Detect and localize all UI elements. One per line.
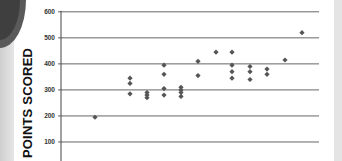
- data-point-diamond: [127, 91, 132, 96]
- data-point-diamond: [92, 115, 97, 120]
- data-point-diamond: [213, 50, 218, 55]
- data-point-diamond: [247, 64, 252, 69]
- y-tick-label: 200: [44, 112, 55, 119]
- data-point-diamond: [161, 86, 166, 91]
- data-point-diamond: [127, 76, 132, 81]
- data-point-diamond: [127, 81, 132, 86]
- data-point-diamond: [229, 69, 234, 74]
- data-point-diamond: [264, 72, 269, 77]
- data-point-diamond: [247, 77, 252, 82]
- data-point-diamond: [195, 73, 200, 78]
- data-point-diamond: [178, 94, 183, 99]
- y-tick-label: 100: [44, 138, 55, 145]
- y-tick-label: 400: [44, 60, 55, 67]
- y-tick-label: 500: [44, 34, 55, 41]
- data-point-diamond: [161, 63, 166, 68]
- data-point-diamond: [299, 30, 304, 35]
- data-point-diamond: [161, 93, 166, 98]
- scatter-chart: 100200300400500600: [0, 0, 342, 161]
- data-point-diamond: [195, 59, 200, 64]
- data-point-diamond: [144, 95, 149, 100]
- data-point-diamond: [161, 72, 166, 77]
- data-point-diamond: [229, 50, 234, 55]
- y-tick-label: 300: [44, 86, 55, 93]
- y-tick-label: 600: [44, 8, 55, 15]
- data-point-diamond: [229, 63, 234, 68]
- data-point-diamond: [229, 76, 234, 81]
- data-point-diamond: [264, 66, 269, 71]
- data-point-diamond: [282, 57, 287, 62]
- data-point-diamond: [247, 69, 252, 74]
